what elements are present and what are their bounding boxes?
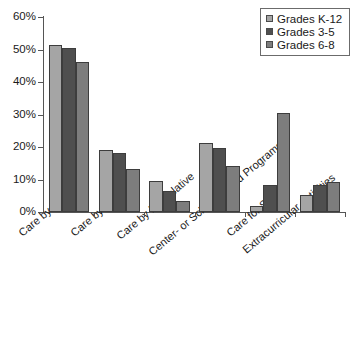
bar[interactable] (76, 62, 90, 212)
bar-group (99, 17, 140, 212)
y-tick-label: 10% (0, 174, 36, 185)
y-tick-label: 30% (0, 109, 36, 120)
y-tick-mark (38, 50, 43, 51)
x-tick-mark (345, 213, 346, 217)
y-tick-mark (38, 17, 43, 18)
y-axis-labels: 60%50%40%30%20%10%0% (0, 0, 36, 345)
bar-group (149, 17, 190, 212)
y-tick-label: 0% (0, 206, 36, 217)
bar[interactable] (313, 185, 327, 212)
bar-group (49, 17, 90, 212)
bar[interactable] (250, 206, 264, 212)
y-tick-mark (38, 82, 43, 83)
bar[interactable] (277, 113, 291, 212)
y-tick-label: 50% (0, 44, 36, 55)
bar-group (250, 17, 291, 212)
y-tick-label: 40% (0, 76, 36, 87)
bar[interactable] (300, 195, 314, 212)
x-tick-mark (94, 213, 95, 217)
bar[interactable] (199, 143, 213, 212)
y-tick-mark (38, 212, 43, 213)
bar-chart: 60%50%40%30%20%10%0% Care by ParentsCare… (0, 0, 361, 345)
bar[interactable] (163, 191, 177, 212)
y-tick-label: 20% (0, 141, 36, 152)
bar[interactable] (263, 185, 277, 212)
y-tick-mark (38, 180, 43, 181)
x-tick-mark (295, 213, 296, 217)
x-tick-mark (195, 213, 196, 217)
bar[interactable] (49, 45, 63, 212)
bar-group (300, 17, 341, 212)
bar[interactable] (226, 166, 240, 212)
bar[interactable] (99, 150, 113, 212)
y-tick-mark (38, 147, 43, 148)
bar[interactable] (176, 201, 190, 212)
bar[interactable] (327, 182, 341, 212)
bar[interactable] (126, 169, 140, 212)
bar[interactable] (113, 153, 127, 212)
y-tick-mark (38, 115, 43, 116)
x-tick-mark (245, 213, 246, 217)
bar[interactable] (213, 148, 227, 212)
y-tick-label: 60% (0, 11, 36, 22)
bar-group (199, 17, 240, 212)
bar[interactable] (62, 48, 76, 212)
bar[interactable] (149, 181, 163, 212)
x-tick-mark (144, 213, 145, 217)
